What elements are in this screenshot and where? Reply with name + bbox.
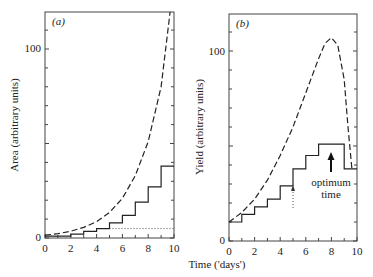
panel-a-frame — [45, 12, 174, 238]
xtick-label: 6 — [303, 245, 309, 257]
panel-b-ytick-100: 100 — [209, 45, 226, 57]
xtick-label: 0 — [42, 242, 48, 254]
panel-b: (b) 100 0 Yield (arbitrary units) 024681… — [193, 14, 363, 257]
panel-a-ticks — [45, 30, 174, 238]
panel-b-ticks — [229, 32, 357, 241]
xtick-label: 0 — [226, 245, 232, 257]
xtick-label: 4 — [94, 242, 100, 254]
panel-a-label: (a) — [52, 15, 65, 28]
optimum-arrow-head-icon — [328, 152, 335, 160]
xtick-label: 6 — [120, 242, 126, 254]
xtick-label: 4 — [277, 245, 283, 257]
figure: (a) 100 0 Area (arbitrary units) 0246810… — [0, 0, 373, 277]
xtick-label: 8 — [145, 242, 151, 254]
panel-b-ylabel: Yield (arbitrary units) — [193, 79, 206, 175]
panel-a-ytick-0: 0 — [36, 231, 42, 243]
panel-b-label: (b) — [236, 17, 249, 30]
annotation-optimum: optimum — [311, 176, 351, 188]
xtick-label: 10 — [169, 242, 181, 254]
xtick-label: 2 — [68, 242, 74, 254]
panel-a-dashed-curve — [45, 12, 170, 235]
annotation-time: time — [321, 188, 341, 200]
xtick-label: 10 — [352, 245, 364, 257]
xtick-label: 2 — [252, 245, 258, 257]
xtick-label: 8 — [329, 245, 335, 257]
panel-b-xtick-labels: 0246810 — [226, 245, 363, 257]
panel-a-staircase — [45, 166, 174, 236]
panel-a-ylabel: Area (arbitrary units) — [8, 78, 21, 172]
panel-a-ytick-100: 100 — [25, 42, 42, 54]
panel-a: (a) 100 0 Area (arbitrary units) 0246810 — [8, 12, 180, 254]
panel-a-xtick-labels: 0246810 — [42, 242, 180, 254]
x-axis-label: Time ('days') — [188, 258, 245, 271]
panel-b-ytick-0: 0 — [220, 234, 226, 246]
